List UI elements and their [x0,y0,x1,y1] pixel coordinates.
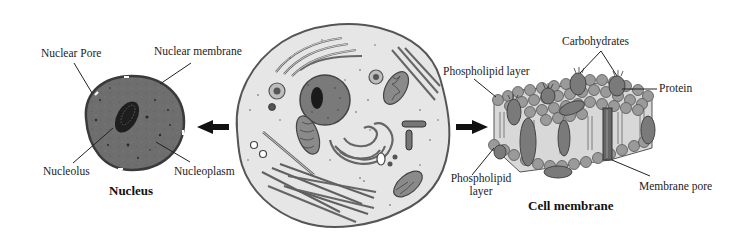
label-phospholipid-line2: layer [446,185,516,198]
label-nucleoplasm: Nucleoplasm [174,165,235,178]
arrow-left-icon [197,120,229,134]
label-phospholipid-layer-top: Phospholipid layer [443,65,530,78]
label-nucleolus: Nucleolus [43,165,90,178]
label-carbohydrates: Carbohydrates [562,35,629,48]
title-nucleus: Nucleus [109,183,153,199]
cell-diagram: Nuclear Pore Nuclear membrane Nucleolus … [0,0,750,247]
label-nuclear-membrane: Nuclear membrane [154,45,242,58]
label-phospholipid-layer-bottom: Phospholipid layer [446,172,516,198]
nucleus-drawing [73,63,191,170]
title-cell-membrane: Cell membrane [528,198,614,214]
diagram-canvas [0,0,750,247]
protein-shape [570,73,586,95]
label-nuclear-pore: Nuclear Pore [41,47,101,60]
label-membrane-pore: Membrane pore [639,180,712,193]
cell-drawing [237,24,450,227]
arrow-right-icon [456,120,488,134]
label-phospholipid-line1: Phospholipid [446,172,516,185]
protein-shape [609,76,625,96]
label-protein: Protein [659,82,692,95]
